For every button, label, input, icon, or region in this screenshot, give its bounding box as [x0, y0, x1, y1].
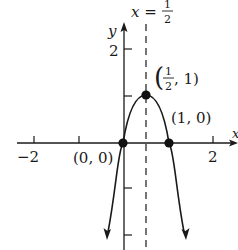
x-tick-label-2: 2 — [208, 148, 218, 166]
point-label-1-0: (1, 0) — [171, 109, 211, 127]
vertex-point — [141, 90, 150, 99]
x-axis — [17, 136, 238, 147]
svg-text:2: 2 — [165, 80, 172, 93]
y-tick-label-2: 2 — [109, 42, 119, 60]
curve-right-arrow-icon — [182, 228, 190, 240]
svg-text:1: 1 — [165, 65, 172, 78]
y-axis-label: y — [107, 22, 117, 40]
svg-text:x =: x = — [131, 3, 157, 21]
svg-text:(: ( — [154, 62, 164, 92]
y-axis — [121, 22, 133, 250]
parabola-graph: x = 1 2 y x 2 −2 2 ( 1 2 , 1) (1, 0) (0,… — [0, 0, 238, 250]
svg-text:2: 2 — [164, 13, 171, 26]
svg-text:1: 1 — [164, 0, 171, 11]
origin-point — [118, 138, 127, 147]
svg-text:, 1): , 1) — [174, 70, 199, 88]
vertex-label: ( 1 2 , 1) — [154, 62, 199, 93]
x-axis-label: x — [232, 126, 238, 141]
intercept-point-1-0 — [164, 138, 173, 147]
curve-left-arrow-icon — [104, 228, 112, 240]
x-tick-label--2: −2 — [17, 148, 39, 166]
axis-of-symmetry-label: x = 1 2 — [131, 0, 173, 26]
point-label-0-0: (0, 0) — [73, 149, 113, 167]
